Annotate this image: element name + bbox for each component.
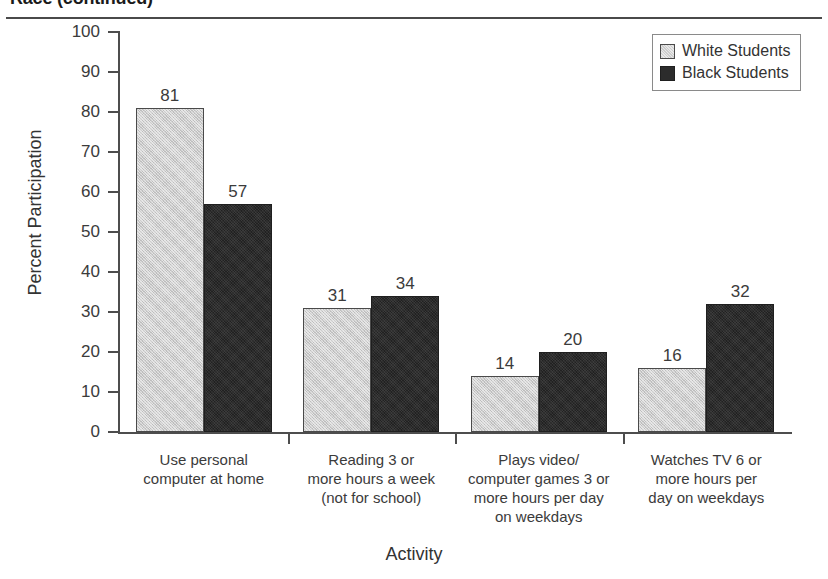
y-tick-label: 10 bbox=[28, 383, 100, 400]
x-axis-tick bbox=[288, 434, 290, 444]
bar: 16 bbox=[638, 368, 706, 432]
y-tick-mark bbox=[108, 191, 119, 193]
category-label-line: Use personal bbox=[120, 450, 288, 469]
x-axis-title: Activity bbox=[0, 544, 828, 565]
y-tick-mark bbox=[108, 391, 119, 393]
legend-swatch-icon bbox=[660, 44, 675, 59]
y-tick-label: 90 bbox=[28, 63, 100, 80]
x-axis-tick bbox=[455, 434, 457, 444]
chart-legend: White StudentsBlack Students bbox=[652, 34, 801, 91]
category-label-line: Plays video/ bbox=[455, 450, 623, 469]
category-label-line: computer at home bbox=[120, 469, 288, 488]
category-label-line: more hours per day bbox=[455, 488, 623, 507]
category-label-line: on weekdays bbox=[455, 507, 623, 526]
legend-item: White Students bbox=[660, 40, 791, 62]
category-label-line: day on weekdays bbox=[623, 488, 791, 507]
bar: 32 bbox=[706, 304, 774, 432]
y-tick-mark bbox=[108, 311, 119, 313]
bar: 31 bbox=[303, 308, 371, 432]
y-tick-label: 20 bbox=[28, 343, 100, 360]
bar: 81 bbox=[136, 108, 204, 432]
bar: 57 bbox=[204, 204, 272, 432]
y-tick-mark bbox=[108, 351, 119, 353]
bar-value-label: 16 bbox=[663, 347, 682, 364]
bar-chart: 1009080706050403020100 Percent Participa… bbox=[0, 22, 828, 579]
legend-label: Black Students bbox=[682, 65, 789, 81]
x-axis-category-label: Plays video/computer games 3 ormore hour… bbox=[455, 450, 623, 526]
category-label-line: (not for school) bbox=[288, 488, 456, 507]
bar-value-label: 34 bbox=[396, 275, 415, 292]
bar-value-label: 32 bbox=[731, 283, 750, 300]
x-axis-category-label: Use personalcomputer at home bbox=[120, 450, 288, 488]
y-tick-mark bbox=[108, 231, 119, 233]
y-tick-label: 100 bbox=[28, 23, 100, 40]
plot-area: 8157313414201632 bbox=[120, 32, 790, 432]
bar-value-label: 14 bbox=[495, 355, 514, 372]
x-axis-tick bbox=[623, 434, 625, 444]
y-axis-title: Percent Participation bbox=[25, 93, 46, 333]
y-axis-ticks: 1009080706050403020100 bbox=[0, 22, 120, 442]
category-label-line: more hours per bbox=[623, 469, 791, 488]
y-tick-mark bbox=[108, 111, 119, 113]
y-tick-mark bbox=[108, 71, 119, 73]
y-tick-mark bbox=[108, 151, 119, 153]
y-tick-label: 0 bbox=[28, 423, 100, 440]
x-axis-category-label: Watches TV 6 ormore hours perday on week… bbox=[623, 450, 791, 507]
bar-value-label: 31 bbox=[328, 287, 347, 304]
x-axis-category-label: Reading 3 ormore hours a week(not for sc… bbox=[288, 450, 456, 507]
legend-swatch-icon bbox=[660, 66, 675, 81]
category-label-line: Watches TV 6 or bbox=[623, 450, 791, 469]
legend-item: Black Students bbox=[660, 62, 791, 84]
page-title: Race (continued) bbox=[10, 0, 153, 9]
y-tick-mark bbox=[108, 431, 119, 433]
y-tick-mark bbox=[108, 31, 119, 33]
bar: 34 bbox=[371, 296, 439, 432]
bar-value-label: 81 bbox=[160, 87, 179, 104]
y-tick-mark bbox=[108, 271, 119, 273]
bar: 14 bbox=[471, 376, 539, 432]
category-label-line: Reading 3 or bbox=[288, 450, 456, 469]
category-label-line: more hours a week bbox=[288, 469, 456, 488]
category-label-line: computer games 3 or bbox=[455, 469, 623, 488]
header-divider bbox=[6, 17, 822, 19]
bar-value-label: 20 bbox=[563, 331, 582, 348]
bar: 20 bbox=[539, 352, 607, 432]
legend-label: White Students bbox=[682, 43, 791, 59]
bar-value-label: 57 bbox=[228, 183, 247, 200]
